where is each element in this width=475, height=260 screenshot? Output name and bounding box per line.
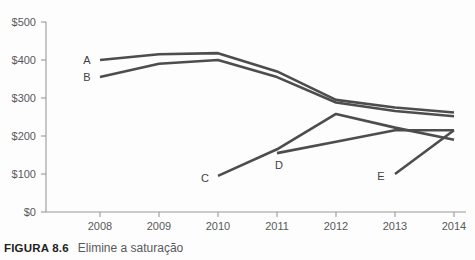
figure-caption-label: FIGURA 8.6 bbox=[4, 242, 69, 254]
y-tick-label-200: $200 bbox=[12, 130, 36, 142]
x-tick-label-2014: 2014 bbox=[442, 220, 466, 232]
x-tick-label-2009: 2009 bbox=[147, 220, 171, 232]
figure-caption: FIGURA 8.6Elimine a saturação bbox=[4, 238, 472, 256]
y-tick-label-100: $100 bbox=[12, 168, 36, 180]
x-tick-label-2012: 2012 bbox=[324, 220, 348, 232]
line-chart: $0 $100 $200 $300 $400 $500 2008 2009 20… bbox=[0, 0, 475, 260]
series-label-A: A bbox=[83, 54, 91, 66]
series-line-E bbox=[395, 130, 454, 174]
series-labels-group: A B C D E bbox=[83, 54, 384, 184]
series-label-C: C bbox=[201, 172, 209, 184]
y-tick-label-500: $500 bbox=[12, 16, 36, 28]
series-lines-group bbox=[100, 53, 454, 176]
series-line-A bbox=[100, 53, 454, 112]
x-tick-label-2013: 2013 bbox=[383, 220, 407, 232]
series-line-C bbox=[218, 114, 454, 176]
series-label-E: E bbox=[377, 170, 384, 182]
y-tick-label-400: $400 bbox=[12, 54, 36, 66]
x-tick-label-2008: 2008 bbox=[88, 220, 112, 232]
figure-container: $0 $100 $200 $300 $400 $500 2008 2009 20… bbox=[0, 0, 475, 260]
x-axis-ticks bbox=[100, 212, 454, 217]
y-axis-ticks bbox=[41, 22, 46, 212]
y-tick-label-0: $0 bbox=[24, 206, 36, 218]
series-label-D: D bbox=[275, 159, 283, 171]
x-tick-label-2010: 2010 bbox=[206, 220, 230, 232]
figure-caption-text: Elimine a saturação bbox=[78, 241, 183, 255]
x-tick-label-2011: 2011 bbox=[265, 220, 289, 232]
y-tick-label-300: $300 bbox=[12, 92, 36, 104]
series-label-B: B bbox=[83, 71, 90, 83]
